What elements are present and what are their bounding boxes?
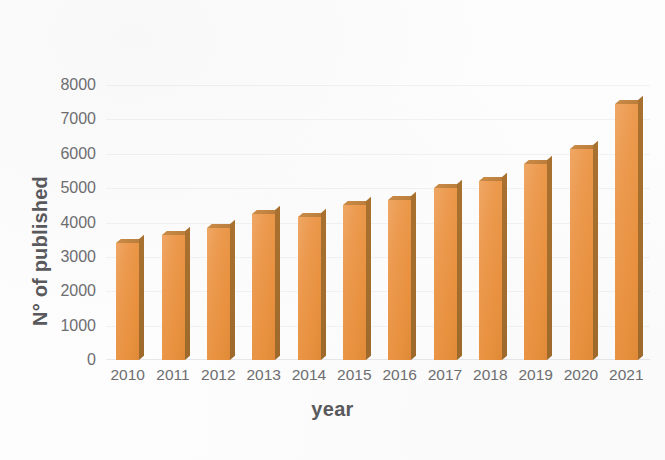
x-tick-label: 2012 <box>193 366 243 384</box>
gridline <box>106 188 650 189</box>
gridline <box>106 119 650 120</box>
gridline <box>106 154 650 155</box>
x-tick-label: 2015 <box>329 366 379 384</box>
x-tick-label: 2018 <box>465 366 515 384</box>
x-tick-label: 2011 <box>148 366 198 384</box>
bar-2014 <box>298 217 321 360</box>
bar-2011 <box>162 235 185 360</box>
y-tick-label: 8000 <box>0 76 96 94</box>
gridline <box>106 85 650 86</box>
bar-2016 <box>388 200 411 360</box>
bar-2021 <box>615 104 638 360</box>
x-tick-label: 2014 <box>284 366 334 384</box>
bar-2012 <box>207 228 230 360</box>
x-tick-label: 2020 <box>556 366 606 384</box>
y-tick-label: 5000 <box>0 179 96 197</box>
x-tick-label: 2021 <box>601 366 651 384</box>
y-tick-label: 1000 <box>0 317 96 335</box>
y-tick-label: 6000 <box>0 145 96 163</box>
x-tick-label: 2017 <box>420 366 470 384</box>
bar-2018 <box>479 181 502 360</box>
bar-2015 <box>343 205 366 360</box>
y-axis-tick-labels: 8000 7000 6000 5000 4000 3000 2000 1000 … <box>0 0 100 460</box>
x-axis-title: year <box>0 398 665 421</box>
x-tick-label: 2010 <box>103 366 153 384</box>
x-axis-tick-labels: 2010201120122013201420152016201720182019… <box>106 366 650 390</box>
axis-baseline <box>106 359 650 360</box>
y-tick-label: 7000 <box>0 110 96 128</box>
x-tick-label: 2019 <box>511 366 561 384</box>
bar-2020 <box>570 149 593 360</box>
bar-2010 <box>116 243 139 360</box>
bar-2013 <box>252 214 275 360</box>
y-tick-label: 3000 <box>0 248 96 266</box>
x-tick-label: 2016 <box>375 366 425 384</box>
x-tick-label: 2013 <box>239 366 289 384</box>
y-tick-label: 0 <box>0 351 96 369</box>
y-tick-label: 4000 <box>0 214 96 232</box>
plot-area <box>106 85 650 360</box>
bar-2017 <box>434 188 457 360</box>
bar-chart-figure: N° of published 8000 7000 6000 5000 4000… <box>0 0 665 460</box>
bar-2019 <box>524 164 547 360</box>
y-tick-label: 2000 <box>0 282 96 300</box>
gridline <box>106 223 650 224</box>
